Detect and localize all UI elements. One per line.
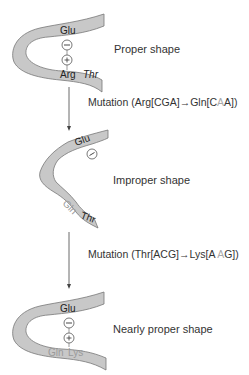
arrow-down-1 [67, 87, 71, 131]
mutation-to-end: A]) [224, 96, 237, 108]
mutation-to: Lys[A [190, 248, 218, 260]
residue-gln: Gln [48, 347, 64, 358]
stage-label-improper: Improper shape [113, 174, 190, 186]
mutation-to: Gln[C [190, 96, 217, 108]
residue-lys: Lys [68, 347, 83, 358]
protein-strand-nearly-proper: Glu Gln Lys [13, 292, 106, 370]
residue-glu: Glu [73, 132, 91, 148]
residue-glu: Glu [60, 25, 76, 36]
stage-label-proper: Proper shape [114, 43, 180, 55]
protein-strand-improper: Glu Gln Thr [40, 130, 108, 228]
residue-glu: Glu [60, 303, 76, 314]
arrow-right-icon: → [180, 96, 191, 108]
mutation-to-end: G]) [224, 248, 239, 260]
mutated-base: A [217, 96, 224, 108]
residue-arg: Arg [60, 69, 76, 80]
mutation-label-1: Mutation (Arg[CGA]→Gln[CAA]) [88, 96, 237, 108]
mutation-diagram: Glu Arg Thr Glu Gln Thr Glu [0, 0, 249, 375]
arrow-down-2 [67, 232, 71, 289]
mutation-label-2: Mutation (Thr[ACG]→Lys[A AG]) [88, 248, 239, 260]
stage-label-nearly-proper: Nearly proper shape [113, 323, 213, 335]
protein-strand-proper: Glu Arg Thr [13, 14, 104, 92]
mutation-from: Mutation (Thr[ACG] [88, 248, 179, 260]
residue-thr: Thr [83, 69, 99, 80]
mutation-from: Mutation (Arg[CGA] [88, 96, 180, 108]
arrow-right-icon: → [179, 248, 190, 260]
residue-gln: Gln [61, 198, 80, 217]
